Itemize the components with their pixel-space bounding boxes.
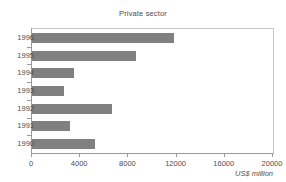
y-axis-tick	[27, 64, 32, 65]
x-axis-label-4000: 4000	[57, 159, 101, 168]
y-axis-label-1992: 1992	[4, 104, 34, 113]
bar-1991	[32, 121, 70, 131]
x-axis-tick-16000	[224, 153, 225, 157]
bar-1995	[32, 51, 136, 61]
y-axis-label-1996: 1996	[4, 33, 34, 42]
x-axis-tick-0	[31, 153, 32, 157]
y-axis-label-1993: 1993	[4, 86, 34, 95]
x-axis-tick-12000	[176, 153, 177, 157]
y-axis-tick	[27, 100, 32, 101]
bar-1994	[32, 68, 74, 78]
y-axis-label-1994: 1994	[4, 68, 34, 77]
y-axis-label-1991: 1991	[4, 121, 34, 130]
bar-chart: Private sector 1996199519941993199219911…	[0, 0, 286, 182]
bars-layer	[32, 29, 273, 153]
y-axis-tick	[27, 135, 32, 136]
x-axis-label-16000: 16000	[202, 159, 246, 168]
y-axis-label-1990: 1990	[4, 139, 34, 148]
x-axis-tick-20000	[272, 153, 273, 157]
chart-title: Private sector	[0, 9, 286, 18]
x-axis-label-0: 0	[9, 159, 53, 168]
x-axis-label-8000: 8000	[105, 159, 149, 168]
bar-1992	[32, 104, 112, 114]
x-axis-tick-4000	[79, 153, 80, 157]
x-axis-label-12000: 12000	[154, 159, 198, 168]
bar-1993	[32, 86, 64, 96]
y-axis-tick	[27, 82, 32, 83]
bar-1990	[32, 139, 95, 149]
bar-1996	[32, 33, 174, 43]
y-axis-tick	[27, 118, 32, 119]
x-axis-label-20000: 20000	[250, 159, 286, 168]
x-axis-tick-8000	[127, 153, 128, 157]
x-axis-caption: US$ million	[235, 169, 273, 178]
y-axis-label-1995: 1995	[4, 51, 34, 60]
y-axis-tick	[27, 47, 32, 48]
